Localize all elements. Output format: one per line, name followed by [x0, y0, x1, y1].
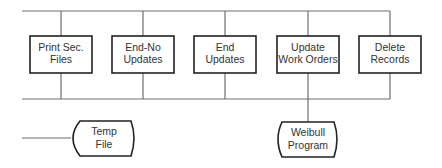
storage-weibull-program: Weibull Program: [278, 122, 337, 157]
process-label: Updates: [205, 53, 244, 65]
temp-file-label-1: Temp: [91, 125, 117, 137]
process-label: Records: [370, 53, 409, 65]
process-label: Updates: [123, 53, 162, 65]
process-label: Work Orders: [278, 53, 337, 65]
process-end-updates: EndUpdates: [194, 11, 256, 99]
process-label: Print Sec.: [38, 41, 84, 53]
weibull-label-2: Program: [288, 139, 329, 151]
flowchart: Print Sec.FilesEnd-NoUpdatesEndUpdatesUp…: [0, 0, 442, 168]
process-label: End-No: [125, 41, 161, 53]
process-label: Delete: [375, 41, 406, 53]
process-label: Files: [50, 53, 72, 65]
storage-temp-file: Temp File: [73, 121, 134, 156]
process-label: Update: [291, 41, 325, 53]
process-update-work-orders: UpdateWork Orders: [277, 11, 339, 99]
process-print-sec-files: Print Sec.Files: [30, 11, 92, 99]
process-delete-records: DeleteRecords: [359, 11, 421, 99]
weibull-label-1: Weibull: [291, 126, 325, 138]
temp-file-label-2: File: [96, 138, 113, 150]
process-end-no-updates: End-NoUpdates: [112, 11, 174, 99]
process-label: End: [216, 41, 235, 53]
